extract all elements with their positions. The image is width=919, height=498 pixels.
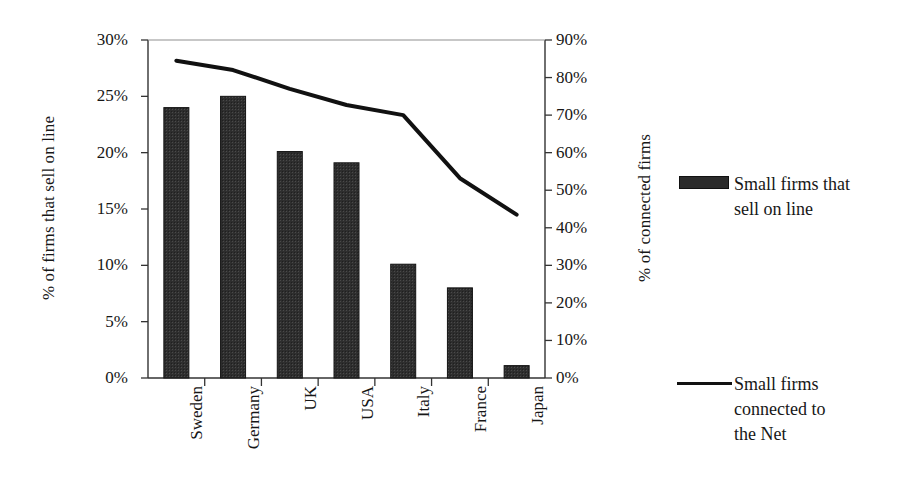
bar-uk <box>277 152 302 378</box>
axis-tick-label: 80% <box>556 69 587 86</box>
x-axis-category-label: Sweden <box>188 386 205 496</box>
bar-france <box>447 288 472 378</box>
axis-tick-label: 90% <box>556 31 587 48</box>
x-axis-category-label: Italy <box>415 386 432 496</box>
x-axis-category-label: UK <box>302 386 319 496</box>
legend-line-swatch-icon <box>676 372 734 394</box>
axis-tick-label: 5% <box>105 313 128 330</box>
x-axis-category-labels: SwedenGermanyUKUSAItalyFranceJapan <box>148 386 545 498</box>
axis-tick-label: 10% <box>97 256 128 273</box>
y-axis-right-tick-labels: 0%10%20%30%40%50%60%70%80%90% <box>556 0 618 498</box>
axis-tick-label: 50% <box>556 181 587 198</box>
bar-sweden <box>164 108 189 378</box>
legend-item-line: Small firms connected to the Net <box>676 372 919 447</box>
chart-legend: Small firms that sell on line Small firm… <box>676 0 919 498</box>
x-axis-category-label: Japan <box>529 386 546 496</box>
axis-tick-label: 25% <box>97 87 128 104</box>
plot-area <box>148 40 545 378</box>
plot-svg <box>148 40 545 378</box>
bar-italy <box>391 264 416 378</box>
axis-tick-label: 0% <box>105 369 128 386</box>
x-axis-category-label: France <box>472 386 489 496</box>
axis-tick-label: 70% <box>556 106 587 123</box>
legend-item-bars: Small firms that sell on line <box>676 172 919 222</box>
chart-figure: % of firms that sell on line % of connec… <box>0 0 919 498</box>
axis-tick-label: 0% <box>556 369 579 386</box>
bar-japan <box>504 366 529 378</box>
axis-tick-label: 10% <box>556 331 587 348</box>
axis-tick-label: 30% <box>97 31 128 48</box>
x-axis-category-label: USA <box>359 386 376 496</box>
bar-usa <box>334 163 359 378</box>
legend-item-bars-label: Small firms that sell on line <box>734 172 850 222</box>
legend-bar-swatch-icon <box>676 172 734 194</box>
y-axis-right-title: % of connected firms <box>635 63 655 353</box>
axis-tick-label: 60% <box>556 144 587 161</box>
axis-tick-label: 40% <box>556 219 587 236</box>
y-axis-left-title: % of firms that sell on line <box>39 63 59 353</box>
axis-tick-label: 20% <box>97 144 128 161</box>
axis-tick-label: 30% <box>556 256 587 273</box>
x-axis-category-label: Germany <box>245 386 262 496</box>
legend-item-line-label: Small firms connected to the Net <box>734 372 825 447</box>
axis-tick-label: 20% <box>556 294 587 311</box>
y-axis-left-tick-labels: 0%5%10%15%20%25%30% <box>66 0 128 498</box>
axis-tick-label: 15% <box>97 200 128 217</box>
bar-germany <box>221 96 246 378</box>
